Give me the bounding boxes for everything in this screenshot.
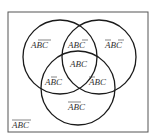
svg-text:ABC: ABC: [44, 77, 63, 87]
svg-text:ABC: ABC: [67, 40, 86, 50]
region-a-only: ABC: [30, 40, 51, 50]
svg-text:ABC: ABC: [88, 77, 107, 87]
venn-diagram: ABC ABC ABC ABC ABC ABC ABC ABC: [0, 0, 156, 137]
region-ac-not-b: ABC: [44, 77, 63, 87]
region-abc: ABC: [69, 59, 88, 69]
region-b-only: ABC: [104, 40, 124, 50]
svg-text:ABC: ABC: [67, 102, 86, 112]
svg-text:ABC: ABC: [30, 40, 49, 50]
svg-text:ABC: ABC: [104, 40, 123, 50]
region-c-only: ABC: [67, 102, 86, 112]
svg-text:ABC: ABC: [69, 59, 88, 69]
region-ab-not-c: ABC: [67, 40, 88, 50]
universe-rectangle: [8, 12, 148, 132]
region-bc-not-a: ABC: [88, 77, 107, 87]
region-outside: ABC: [11, 120, 31, 130]
svg-text:ABC: ABC: [11, 120, 30, 130]
